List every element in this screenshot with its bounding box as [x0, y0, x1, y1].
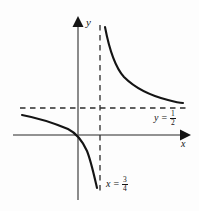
graph-canvas [0, 0, 199, 211]
y-axis-label: y [86, 17, 91, 28]
horizontal-asymptote-label: y = 1 2 [154, 110, 176, 127]
figure-container: y x y = 1 2 x = 3 4 [0, 0, 199, 211]
vertical-asymptote-fraction: 3 4 [122, 176, 128, 193]
horizontal-asymptote-fraction: 1 2 [170, 110, 176, 127]
horizontal-asymptote-variable: y [154, 113, 158, 123]
curve-left-branch [22, 115, 97, 188]
horizontal-asymptote-denominator: 2 [170, 118, 176, 127]
horizontal-asymptote-numerator: 1 [170, 110, 176, 118]
vertical-asymptote-numerator: 3 [122, 176, 128, 184]
x-axis-label: x [181, 139, 185, 149]
curve-right-branch [105, 27, 183, 103]
y-axis-arrowhead [73, 16, 84, 27]
vertical-asymptote-denominator: 4 [122, 184, 128, 193]
vertical-asymptote-relation: = [112, 179, 120, 189]
vertical-asymptote-equation: x = 3 4 [106, 176, 128, 193]
vertical-asymptote-label: x = 3 4 [106, 176, 128, 193]
horizontal-asymptote-relation: = [160, 113, 168, 123]
vertical-asymptote-variable: x [106, 179, 110, 189]
horizontal-asymptote-equation: y = 1 2 [154, 110, 176, 127]
x-axis [13, 130, 191, 141]
